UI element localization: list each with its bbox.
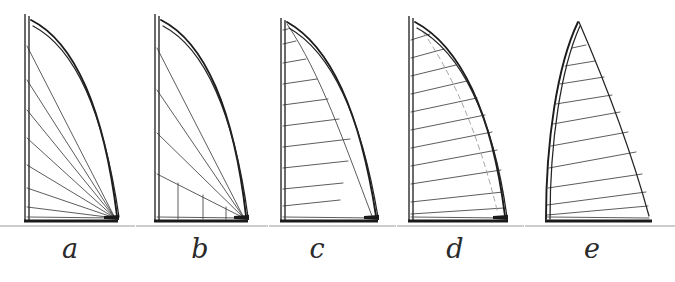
caption-a: a: [62, 233, 78, 264]
sail-c-foot: [283, 217, 374, 218]
sail-c-group: c: [269, 18, 396, 264]
sail-a-group: a: [0, 14, 135, 264]
sail-b-clew-patch: [234, 215, 249, 220]
sail-b-foot: [157, 217, 244, 218]
sail-e-leech: [579, 22, 649, 216]
sail-d-clew-patch: [493, 215, 508, 220]
sail-d-seams: [411, 34, 504, 214]
sail-a-clew-patch: [104, 215, 119, 220]
caption-d: d: [446, 233, 463, 264]
sail-d-group: d: [397, 16, 524, 264]
sail-c-leech-inner: [289, 28, 378, 217]
sail-diagram-canvas: a b: [0, 0, 675, 282]
sail-a-leech: [31, 20, 117, 216]
caption-b: b: [191, 233, 208, 264]
sail-a-foot: [27, 217, 115, 218]
sail-d-leech: [415, 22, 505, 216]
sail-a-leech-inner: [33, 26, 119, 217]
sail-diagram-figure: a b: [0, 0, 675, 282]
caption-e: e: [584, 233, 600, 264]
sail-e-foot: [547, 217, 649, 218]
sail-b-leech-inner: [163, 26, 248, 217]
sail-d-foot: [411, 217, 504, 218]
caption-c: c: [309, 233, 324, 264]
sail-d-leech-tape: [423, 32, 498, 214]
sail-e-group: e: [525, 22, 675, 264]
sail-d-leech-inner: [417, 28, 507, 217]
sail-b-leech: [161, 20, 246, 216]
sail-b-group: b: [136, 14, 268, 264]
sail-c-clew-patch: [364, 215, 379, 220]
sail-c-seams: [283, 29, 350, 206]
